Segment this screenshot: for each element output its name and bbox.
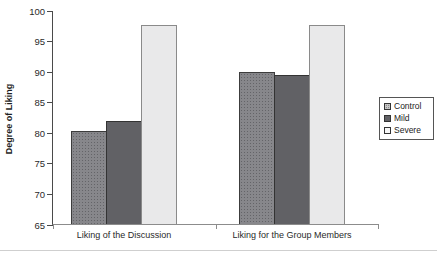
legend: ControlMildSevere xyxy=(379,97,434,140)
y-axis-tick-80 xyxy=(47,133,53,134)
legend-label-mild: Mild xyxy=(394,114,410,123)
y-axis-tick-label-85: 85 xyxy=(17,97,45,108)
legend-item-mild: Mild xyxy=(384,114,430,123)
legend-label-severe: Severe xyxy=(394,126,421,135)
y-axis-tick-label-95: 95 xyxy=(17,36,45,47)
bar-control-group-1 xyxy=(71,131,107,224)
y-axis-tick-label-75: 75 xyxy=(17,158,45,169)
y-axis-tick-85 xyxy=(47,102,53,103)
bar-chart-figure: Degree of Liking 65707580859095100Liking… xyxy=(0,0,437,257)
x-axis-tick-0 xyxy=(53,224,54,229)
y-axis-tick-100 xyxy=(47,11,53,12)
legend-item-severe: Severe xyxy=(384,126,430,135)
legend-swatch-severe-icon xyxy=(384,127,391,134)
y-axis-tick-label-65: 65 xyxy=(17,220,45,231)
y-axis-tick-label-80: 80 xyxy=(17,128,45,139)
legend-item-control: Control xyxy=(384,102,430,111)
legend-swatch-mild-icon xyxy=(384,115,391,122)
bar-mild-group-1 xyxy=(106,121,142,224)
y-axis-title: Degree of Liking xyxy=(4,84,14,155)
bar-severe-group-1 xyxy=(141,25,177,224)
y-axis-tick-label-100: 100 xyxy=(17,6,45,17)
x-axis-category-label-2: Liking for the Group Members xyxy=(212,230,372,240)
page-scan-artifact-line xyxy=(0,250,437,251)
y-axis-tick-95 xyxy=(47,41,53,42)
plot-area: 65707580859095100Liking of the Discussio… xyxy=(52,11,378,225)
y-axis-tick-70 xyxy=(47,194,53,195)
y-axis-tick-label-90: 90 xyxy=(17,67,45,78)
y-axis-tick-90 xyxy=(47,72,53,73)
y-axis-tick-label-70: 70 xyxy=(17,189,45,200)
x-axis-tick-2 xyxy=(378,224,379,229)
x-axis-category-label-1: Liking of the Discussion xyxy=(44,230,204,240)
x-axis-tick-1 xyxy=(216,224,217,229)
legend-swatch-control-icon xyxy=(384,103,391,110)
legend-label-control: Control xyxy=(394,102,421,111)
bar-mild-group-2 xyxy=(274,75,310,224)
bar-severe-group-2 xyxy=(309,25,345,224)
bar-control-group-2 xyxy=(239,72,275,224)
y-axis-tick-75 xyxy=(47,163,53,164)
